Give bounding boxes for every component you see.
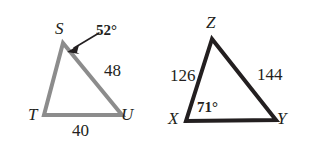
side-length-label-40: 40 xyxy=(72,122,89,139)
angle-pointer-arrow xyxy=(67,33,99,54)
vertex-label-S: S xyxy=(55,20,64,37)
side-length-label-48: 48 xyxy=(104,62,121,79)
vertex-label-U: U xyxy=(121,106,133,123)
side-length-label-144: 144 xyxy=(257,66,283,83)
angle-measure-label-52: 52° xyxy=(96,23,117,38)
vertex-label-X: X xyxy=(168,110,178,127)
geometry-figure: S T U 48 40 52° Z X Y 126 144 71° xyxy=(0,0,315,146)
side-length-label-126: 126 xyxy=(170,67,196,84)
angle-measure-label-71: 71° xyxy=(197,100,218,115)
vertex-label-T: T xyxy=(28,106,37,123)
vertex-label-Z: Z xyxy=(206,14,215,31)
vertex-label-Y: Y xyxy=(277,110,286,127)
